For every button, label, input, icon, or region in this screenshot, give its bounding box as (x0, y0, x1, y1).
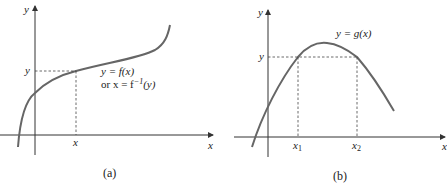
level-label: y (258, 50, 264, 62)
g-curve (252, 43, 394, 147)
x1-label: x1 (292, 139, 302, 153)
x-axis-label: x (207, 139, 213, 151)
inverse-equation: or x = f−1(y) (101, 77, 156, 91)
point-label: x (72, 136, 78, 148)
level-label: y (24, 64, 30, 76)
caption-b: (b) (333, 169, 347, 183)
y-axis-label: y (23, 3, 29, 15)
panel-a: y y x x y = f(x) or x = f−1(y) (a) (0, 3, 213, 180)
y-axis-label: y (257, 6, 263, 18)
x2-label: x2 (351, 139, 361, 153)
curve-equation: y = g(x) (335, 27, 372, 40)
x-axis-label: x (441, 140, 447, 152)
caption-a: (a) (103, 166, 116, 180)
panel-b: y y x1 x2 x y = g(x) (b) (234, 6, 447, 183)
curve-equation: y = f(x) (100, 65, 134, 78)
diagram-canvas: y y x x y = f(x) or x = f−1(y) (a) y y x… (0, 0, 447, 183)
